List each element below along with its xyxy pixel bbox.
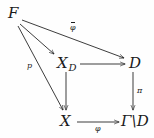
- node-x: X: [60, 114, 71, 129]
- edge-label-pi-text: π: [137, 86, 142, 95]
- edge-label-p-text: p: [27, 61, 32, 70]
- node-gamma-quotient-d-label: Γ\D: [121, 112, 149, 130]
- edge-label-phi: φ: [95, 125, 101, 133]
- edge-label-phi-bar: φ: [70, 24, 76, 32]
- node-xd-base: X: [57, 54, 68, 72]
- node-xd-subscript: D: [68, 62, 76, 73]
- commutative-diagram: F XD D X Γ\D φ p π φ: [0, 0, 154, 138]
- edge-label-phi-bar-text: φ: [70, 24, 76, 32]
- node-x-label: X: [60, 112, 71, 130]
- edge-label-phi-text: φ: [95, 124, 101, 133]
- edge-label-pi: π: [137, 87, 142, 95]
- node-f-label: F: [8, 4, 19, 22]
- node-d: D: [129, 56, 141, 71]
- node-f: F: [8, 6, 19, 21]
- node-d-label: D: [129, 54, 141, 72]
- node-gamma-quotient-d: Γ\D: [121, 114, 149, 129]
- edge-label-p: p: [27, 62, 32, 70]
- node-xd: XD: [57, 56, 77, 73]
